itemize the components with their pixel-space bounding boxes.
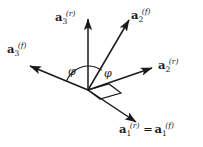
- vector-label-a2r: a2(r): [158, 60, 180, 72]
- vector-label-a1-equality: a1(r)=a1(f): [119, 124, 176, 136]
- vector-arrow-a3f: [30, 66, 88, 90]
- vector-label-a1r-superscript: (r): [130, 121, 140, 130]
- equals-sign: =: [141, 122, 155, 136]
- vector-label-a2r-superscript: (r): [169, 57, 179, 66]
- vector-diagram-figure: a3(r) a2(f) a3(f) a2(r) a1(r)=a1(f) φ φ: [0, 0, 203, 147]
- vector-label-a1f-symbol: a: [155, 122, 162, 136]
- angle-label-phi-right: φ: [104, 68, 112, 79]
- angle-label-phi-left: φ: [68, 66, 76, 77]
- caption-partial-strip: [0, 139, 203, 147]
- vector-label-a3r-superscript: (r): [66, 9, 76, 18]
- vector-label-a1f-superscript: (f): [165, 121, 174, 130]
- vector-label-a3f: a3(f): [7, 44, 28, 56]
- right-angle-marker: [88, 84, 121, 99]
- vector-label-a2f: a2(f): [131, 10, 152, 22]
- vector-label-a3r: a3(r): [55, 12, 77, 24]
- vector-label-a2f-superscript: (f): [142, 7, 151, 16]
- vector-label-a3f-superscript: (f): [18, 41, 27, 50]
